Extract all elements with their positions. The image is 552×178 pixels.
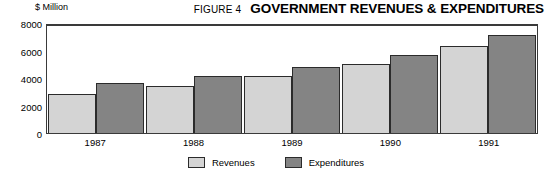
x-axis-tick-1987: 1987 [46,137,144,148]
x-axis-tick-1988: 1988 [145,137,243,148]
bar-expenditures-1988 [194,76,242,134]
legend-swatch-expenditures [285,157,302,168]
y-axis-tick-6000: 6000 [2,46,42,57]
y-axis-tick-4000: 4000 [2,74,42,85]
x-axis-tick-1990: 1990 [341,137,439,148]
legend-label-expenditures: Expenditures [309,157,364,168]
figure-number: FIGURE 4 [194,4,242,15]
x-axis-tick-1991: 1991 [440,137,538,148]
x-axis-tick-1989: 1989 [243,137,341,148]
bar-expenditures-1990 [390,55,438,133]
bar-expenditures-1991 [488,35,536,133]
bar-group-1988 [146,26,242,133]
bar-revenues-1990 [342,64,390,133]
y-axis: 8000 6000 4000 2000 0 [0,24,42,134]
y-axis-tick-2000: 2000 [2,101,42,112]
chart-header: FIGURE 4 GOVERNMENT REVENUES & EXPENDITU… [194,1,544,16]
bar-revenues-1989 [244,76,292,133]
bar-revenues-1988 [146,86,194,133]
legend-label-revenues: Revenues [212,157,255,168]
bar-expenditures-1989 [292,67,340,133]
legend-swatch-revenues [188,157,205,168]
bar-group-1989 [244,26,340,133]
bar-revenues-1991 [440,46,488,133]
bar-group-1990 [342,26,438,133]
y-axis-unit-label: $ Million [35,2,68,12]
x-axis: 1987 1988 1989 1990 1991 [46,137,538,148]
chart-title: GOVERNMENT REVENUES & EXPENDITURES [250,1,544,16]
chart-figure: $ Million FIGURE 4 GOVERNMENT REVENUES &… [0,0,552,178]
legend-item-revenues: Revenues [188,157,255,168]
bar-revenues-1987 [48,94,96,133]
legend-item-expenditures: Expenditures [285,157,364,168]
y-axis-tick-0: 0 [2,129,42,140]
bar-groups [47,26,537,133]
bar-expenditures-1987 [96,83,144,133]
plot-area [46,24,538,134]
bar-group-1991 [440,26,536,133]
chart-legend: Revenues Expenditures [0,157,552,168]
y-axis-tick-8000: 8000 [2,19,42,30]
bar-group-1987 [48,26,144,133]
